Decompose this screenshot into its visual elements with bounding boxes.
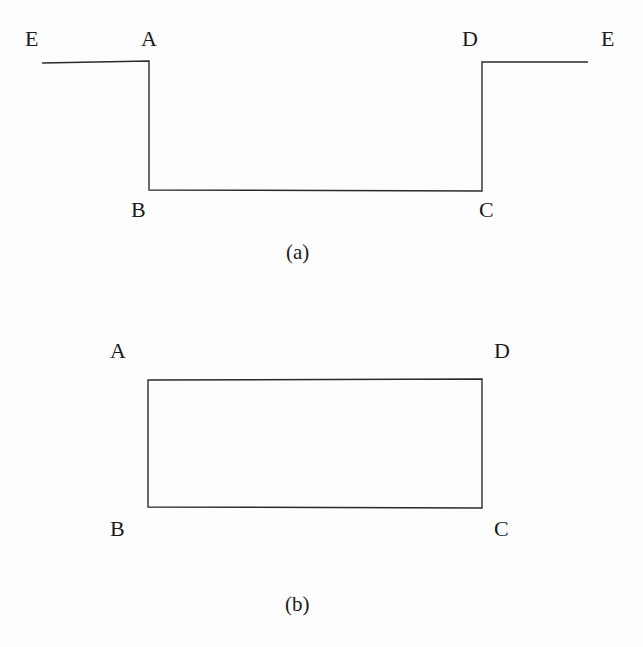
- vertex-label-c: C: [494, 518, 509, 540]
- rectangle-shape: [148, 379, 482, 508]
- vertex-label-b: B: [131, 199, 146, 221]
- vertex-label-e-left: E: [25, 28, 38, 50]
- panel-a: E A D E B C (a): [0, 0, 643, 300]
- figure-root: E A D E B C (a) A D B C (b): [0, 0, 643, 647]
- vertex-label-a: A: [110, 340, 126, 362]
- panel-a-caption: (a): [286, 242, 309, 263]
- vertex-label-e-right: E: [601, 28, 614, 50]
- panel-b-drawing: [0, 300, 643, 647]
- well-profile-path: [42, 61, 588, 191]
- vertex-label-d: D: [494, 340, 510, 362]
- vertex-label-a: A: [141, 28, 157, 50]
- vertex-label-d: D: [462, 28, 478, 50]
- vertex-label-b: B: [110, 518, 125, 540]
- panel-a-drawing: [0, 0, 643, 300]
- vertex-label-c: C: [479, 199, 494, 221]
- panel-b-caption: (b): [285, 594, 310, 615]
- panel-b: A D B C (b): [0, 300, 643, 647]
